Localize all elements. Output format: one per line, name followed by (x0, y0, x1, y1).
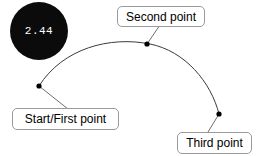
start-point-label-text: Start/First point (25, 113, 106, 125)
third-point-label-text: Third point (186, 137, 243, 149)
second-point-leader-line (147, 25, 160, 44)
arc-path (39, 42, 219, 114)
value-badge-text: 2.44 (25, 26, 53, 37)
diagram-canvas: 2.44 Second point Start/First point Thir… (0, 0, 259, 156)
second-point-label[interactable]: Second point (117, 6, 205, 27)
start-point-marker[interactable] (36, 83, 41, 88)
value-badge: 2.44 (10, 2, 68, 60)
third-point-leader-line (208, 114, 219, 132)
second-point-marker[interactable] (144, 41, 149, 46)
start-point-leader-line (39, 86, 68, 109)
third-point-label[interactable]: Third point (177, 132, 252, 154)
third-point-marker[interactable] (216, 111, 221, 116)
second-point-label-text: Second point (126, 11, 196, 23)
start-point-label[interactable]: Start/First point (12, 108, 119, 130)
